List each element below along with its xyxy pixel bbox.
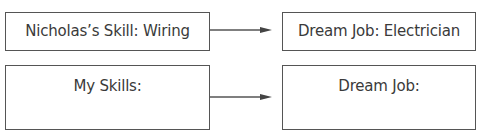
arrow-2	[210, 94, 272, 100]
arrow-1-head	[260, 27, 272, 33]
arrow-2-head	[260, 94, 272, 100]
arrow-1	[210, 27, 272, 33]
arrows-layer	[0, 0, 481, 133]
